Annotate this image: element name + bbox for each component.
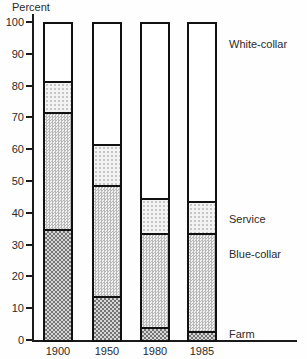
segment-white-collar-1900 — [45, 24, 71, 81]
y-tick-label-10: 10 — [0, 301, 24, 315]
y-tick-20 — [26, 275, 32, 277]
series-label-service: Service — [229, 212, 266, 226]
y-tick-label-90: 90 — [0, 47, 24, 61]
bar-1980 — [140, 22, 170, 342]
bar-1950 — [92, 22, 122, 342]
segment-service-1980 — [142, 198, 168, 233]
y-tick-70 — [26, 116, 32, 118]
segment-blue-collar-1900 — [45, 112, 71, 229]
y-tick-60 — [26, 148, 32, 150]
y-tick-0 — [26, 339, 32, 341]
y-tick-label-70: 70 — [0, 110, 24, 124]
x-category-label-1900: 1900 — [36, 344, 80, 358]
segment-service-1900 — [45, 81, 71, 113]
segment-farm-1900 — [45, 229, 71, 340]
segment-service-1985 — [189, 201, 215, 233]
x-category-label-1980: 1980 — [133, 344, 177, 358]
y-tick-label-30: 30 — [0, 238, 24, 252]
series-label-blue-collar: Blue-collar — [229, 247, 281, 261]
y-tick-80 — [26, 85, 32, 87]
segment-blue-collar-1950 — [94, 185, 120, 296]
y-tick-label-60: 60 — [0, 142, 24, 156]
segment-farm-1985 — [189, 331, 215, 340]
y-tick-30 — [26, 244, 32, 246]
series-label-white-collar: White-collar — [229, 37, 287, 51]
stacked-bar-chart-figure: Percent 01020304050607080901001900195019… — [0, 0, 307, 359]
bar-1985 — [187, 22, 217, 342]
bar-1900 — [43, 22, 73, 342]
y-tick-label-80: 80 — [0, 79, 24, 93]
segment-white-collar-1950 — [94, 24, 120, 144]
segment-farm-1950 — [94, 296, 120, 340]
x-category-label-1985: 1985 — [180, 344, 224, 358]
segment-blue-collar-1980 — [142, 233, 168, 328]
segment-white-collar-1980 — [142, 24, 168, 198]
y-tick-90 — [26, 53, 32, 55]
y-tick-label-40: 40 — [0, 206, 24, 220]
x-category-label-1950: 1950 — [85, 344, 129, 358]
y-tick-label-100: 100 — [0, 15, 24, 29]
y-tick-label-20: 20 — [0, 269, 24, 283]
y-tick-40 — [26, 212, 32, 214]
y-tick-label-0: 0 — [0, 333, 24, 347]
y-tick-50 — [26, 180, 32, 182]
segment-farm-1980 — [142, 327, 168, 340]
segment-white-collar-1985 — [189, 24, 215, 201]
segment-blue-collar-1985 — [189, 233, 215, 331]
y-tick-100 — [26, 21, 32, 23]
y-axis-title: Percent — [12, 0, 50, 14]
y-tick-10 — [26, 307, 32, 309]
series-label-farm: Farm — [229, 327, 255, 341]
y-tick-label-50: 50 — [0, 174, 24, 188]
segment-service-1950 — [94, 144, 120, 185]
y-axis-line — [32, 14, 34, 342]
